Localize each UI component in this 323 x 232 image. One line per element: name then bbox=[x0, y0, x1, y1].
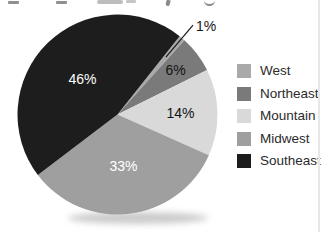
legend-label: Midwest bbox=[260, 132, 310, 146]
page-edge-line bbox=[318, 0, 320, 232]
legend-swatch bbox=[237, 154, 251, 168]
legend: WestNortheastMountainMidwestSoutheast bbox=[237, 64, 321, 168]
pie-label-northeast: 6% bbox=[165, 62, 185, 78]
pie-label-west: 1% bbox=[196, 18, 216, 34]
legend-item-midwest: Midwest bbox=[237, 132, 321, 146]
legend-swatch bbox=[237, 109, 251, 123]
legend-swatch bbox=[237, 87, 251, 101]
pie-drop-shadow bbox=[68, 212, 208, 224]
legend-item-west: West bbox=[237, 64, 321, 78]
pie-label-mountain: 14% bbox=[166, 105, 194, 121]
legend-label: Mountain bbox=[260, 109, 316, 123]
legend-item-southeast: Southeast bbox=[237, 154, 321, 168]
legend-swatch bbox=[237, 132, 251, 146]
legend-item-mountain: Mountain bbox=[237, 109, 321, 123]
legend-label: Northeast bbox=[260, 87, 319, 101]
legend-label: West bbox=[260, 64, 291, 78]
legend-swatch bbox=[237, 64, 251, 78]
pie-label-midwest: 33% bbox=[109, 158, 137, 174]
legend-label: Southeast bbox=[260, 154, 321, 168]
pie-label-southeast: 46% bbox=[68, 71, 96, 87]
legend-item-northeast: Northeast bbox=[237, 87, 321, 101]
